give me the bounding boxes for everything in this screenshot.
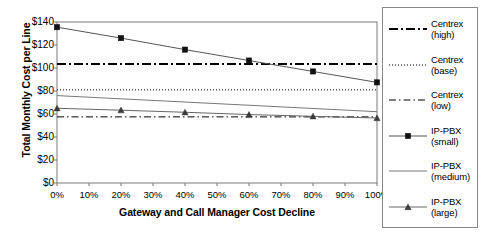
legend-key-swatch	[388, 129, 428, 143]
data-point-marker	[182, 47, 187, 52]
data-point-marker	[405, 133, 410, 138]
legend-key-swatch	[388, 93, 428, 107]
legend-label-line2: (low)	[431, 100, 479, 111]
legend: Centrex(high)Centrex(base)Centrex(low)IP…	[382, 7, 478, 228]
series-ip-pbx-large	[54, 105, 380, 121]
legend-key-swatch	[388, 164, 428, 178]
data-point-marker	[374, 80, 379, 85]
legend-label-line1: Centrex	[431, 89, 479, 100]
chart-figure: Total Monthly Cost per Line $0$20$40$60$…	[0, 0, 483, 235]
legend-label-line1: IP-PBX	[431, 160, 479, 171]
legend-label: Centrex(base)	[431, 54, 479, 76]
legend-key-swatch	[388, 200, 428, 214]
data-point-marker	[54, 25, 59, 30]
series-line	[57, 27, 377, 82]
legend-label-line2: (small)	[431, 136, 479, 147]
legend-label: Centrex(low)	[431, 89, 479, 111]
series-ip-pbx-small	[54, 25, 379, 85]
legend-key-swatch	[388, 22, 428, 36]
legend-label: IP-PBX(medium)	[431, 160, 479, 182]
legend-item[interactable]: IP-PBX(medium)	[383, 164, 479, 198]
data-point-marker	[246, 58, 251, 63]
legend-key-swatch	[388, 58, 428, 72]
legend-label: IP-PBX(small)	[431, 125, 479, 147]
data-point-marker	[118, 36, 123, 41]
legend-label-line1: Centrex	[431, 18, 479, 29]
legend-label-line2: (large)	[431, 207, 479, 218]
legend-label-line1: IP-PBX	[431, 196, 479, 207]
legend-label: IP-PBX(large)	[431, 196, 479, 218]
legend-label-line1: Centrex	[431, 54, 479, 65]
plot-border	[57, 22, 377, 183]
legend-label: Centrex(high)	[431, 18, 479, 40]
legend-label-line2: (base)	[431, 65, 479, 76]
legend-item[interactable]: IP-PBX(large)	[383, 200, 479, 234]
legend-label-line2: (high)	[431, 29, 479, 40]
legend-label-line2: (medium)	[431, 171, 479, 182]
legend-item[interactable]: IP-PBX(small)	[383, 129, 479, 163]
legend-label-line1: IP-PBX	[431, 125, 479, 136]
legend-item[interactable]: Centrex(high)	[383, 22, 479, 56]
legend-item[interactable]: Centrex(low)	[383, 93, 479, 127]
legend-item[interactable]: Centrex(base)	[383, 58, 479, 92]
data-point-marker	[310, 69, 315, 74]
